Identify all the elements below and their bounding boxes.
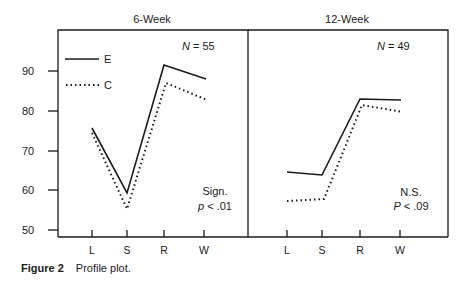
x-axis-left: L S R W	[89, 230, 209, 256]
x-tick-L: L	[284, 244, 290, 256]
significance-label: Sign.	[202, 185, 227, 197]
figure-caption-text: Profile plot.	[76, 262, 131, 274]
legend-label-c: C	[104, 79, 112, 91]
x-tick-R: R	[356, 244, 364, 256]
y-tick-90: 90	[22, 65, 34, 77]
annotation-left: N = 55 Sign. p < .01	[182, 40, 232, 212]
x-tick-W: W	[395, 244, 405, 256]
x-tick-W: W	[199, 244, 209, 256]
plot-frame	[58, 30, 448, 237]
panel-title-12-week: 12-Week	[325, 13, 369, 25]
y-tick-50: 50	[22, 224, 34, 236]
profile-plot-figure: 6-Week 12-Week 90 80 70 60 50 L S R W	[0, 0, 471, 283]
p-value-label: p < .01	[197, 200, 232, 212]
x-tick-R: R	[160, 244, 168, 256]
y-tick-70: 70	[22, 145, 34, 157]
y-tick-60: 60	[22, 184, 34, 196]
p-value-label: P < .09	[393, 200, 428, 212]
figure-caption: Figure 2Profile plot.	[21, 262, 131, 274]
series-c-line	[287, 105, 403, 201]
panel-title-6-week: 6-Week	[133, 13, 171, 25]
sample-size-label: N = 49	[377, 40, 410, 52]
x-tick-S: S	[318, 244, 325, 256]
figure-label: Figure 2	[21, 262, 64, 274]
series-e-line	[287, 99, 401, 175]
x-tick-S: S	[123, 244, 130, 256]
x-tick-L: L	[89, 244, 95, 256]
series-12-week	[287, 99, 403, 201]
y-axis: 90 80 70 60 50	[22, 65, 58, 236]
significance-label: N.S.	[400, 186, 421, 198]
legend: E C	[65, 53, 112, 91]
x-axis-right: L S R W	[284, 230, 405, 256]
legend-label-e: E	[104, 53, 111, 65]
sample-size-label: N = 55	[182, 40, 215, 52]
annotation-right: N = 49 N.S. P < .09	[377, 40, 429, 212]
series-c-line	[92, 83, 207, 209]
y-tick-80: 80	[22, 105, 34, 117]
